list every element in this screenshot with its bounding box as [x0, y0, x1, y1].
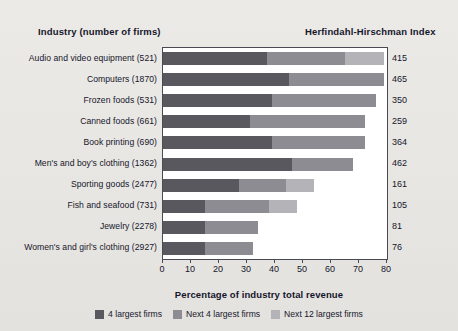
- bar-segment-1: [163, 242, 205, 255]
- hhi-value: 259: [392, 110, 432, 131]
- hhi-column-title: Herfindahl-Hirschman Index: [305, 26, 436, 37]
- x-axis: 01020304050607080: [162, 259, 386, 289]
- hhi-value: 350: [392, 89, 432, 110]
- x-axis-title: Percentage of industry total revenue: [0, 289, 458, 300]
- hhi-value: 105: [392, 195, 432, 216]
- hhi-value: 462: [392, 153, 432, 174]
- category-label: Women's and girl's clothing (2927): [0, 237, 157, 258]
- bar-row: [163, 217, 387, 238]
- category-label: Canned foods (661): [0, 110, 157, 131]
- hhi-value: 415: [392, 47, 432, 68]
- x-tick-label: 60: [325, 264, 335, 274]
- legend-item: Next 12 largest firms: [271, 309, 363, 319]
- bar-segment-1: [163, 73, 289, 86]
- bar-segment-2: [267, 52, 345, 65]
- x-tick-label: 40: [269, 264, 279, 274]
- bar-segment-2: [250, 115, 365, 128]
- bars-container: [163, 48, 387, 259]
- x-tick-label: 70: [353, 264, 363, 274]
- stacked-bar: [163, 158, 387, 171]
- bar-row: [163, 175, 387, 196]
- legend-swatch-icon: [95, 310, 104, 319]
- category-label: Frozen foods (531): [0, 89, 157, 110]
- bar-segment-2: [272, 136, 364, 149]
- category-label: Jewelry (2278): [0, 216, 157, 237]
- bar-row: [163, 132, 387, 153]
- bar-segment-2: [292, 158, 354, 171]
- bar-row: [163, 154, 387, 175]
- category-label: Men's and boy's clothing (1362): [0, 153, 157, 174]
- hhi-value: 161: [392, 174, 432, 195]
- bar-segment-2: [205, 221, 258, 234]
- hhi-value: 76: [392, 237, 432, 258]
- legend-label: 4 largest firms: [108, 309, 162, 319]
- stacked-bar: [163, 242, 387, 255]
- bar-row: [163, 90, 387, 111]
- category-label: Computers (1870): [0, 68, 157, 89]
- stacked-bar: [163, 221, 387, 234]
- category-label: Book printing (690): [0, 131, 157, 152]
- legend-item: Next 4 largest firms: [173, 309, 260, 319]
- bar-segment-1: [163, 221, 205, 234]
- bar-segment-1: [163, 94, 272, 107]
- stacked-bar: [163, 136, 387, 149]
- legend-label: Next 12 largest firms: [284, 309, 363, 319]
- x-tick: [330, 259, 331, 263]
- hhi-value: 81: [392, 216, 432, 237]
- bar-segment-3: [345, 52, 384, 65]
- x-tick-label: 0: [159, 264, 164, 274]
- x-tick: [246, 259, 247, 263]
- stacked-bar: [163, 179, 387, 192]
- chart-figure: Industry (number of firms) Herfindahl-Hi…: [0, 0, 458, 331]
- bar-segment-1: [163, 158, 292, 171]
- stacked-bar: [163, 73, 387, 86]
- legend-label: Next 4 largest firms: [186, 309, 260, 319]
- legend-swatch-icon: [173, 310, 182, 319]
- bar-row: [163, 48, 387, 69]
- bar-segment-2: [289, 73, 384, 86]
- bar-segment-1: [163, 115, 250, 128]
- bar-segment-1: [163, 136, 272, 149]
- x-tick-label: 80: [381, 264, 391, 274]
- bar-segment-2: [272, 94, 376, 107]
- category-label: Sporting goods (2477): [0, 174, 157, 195]
- hhi-value: 364: [392, 131, 432, 152]
- stacked-bar: [163, 94, 387, 107]
- x-tick: [190, 259, 191, 263]
- x-tick: [386, 259, 387, 263]
- bar-segment-1: [163, 200, 205, 213]
- x-tick-label: 20: [213, 264, 223, 274]
- bar-segment-2: [239, 179, 287, 192]
- x-axis-title-text: Percentage of industry total revenue: [115, 289, 343, 300]
- bar-row: [163, 238, 387, 259]
- category-label: Fish and seafood (731): [0, 195, 157, 216]
- bar-segment-1: [163, 179, 239, 192]
- plot-area: [162, 47, 388, 260]
- stacked-bar: [163, 200, 387, 213]
- legend-item: 4 largest firms: [95, 309, 162, 319]
- bar-segment-3: [269, 200, 297, 213]
- x-tick: [302, 259, 303, 263]
- bar-segment-3: [286, 179, 314, 192]
- stacked-bar: [163, 52, 387, 65]
- chart-legend: 4 largest firmsNext 4 largest firmsNext …: [0, 309, 458, 319]
- bar-row: [163, 196, 387, 217]
- bar-segment-2: [205, 242, 253, 255]
- bar-segment-2: [205, 200, 269, 213]
- hhi-value: 465: [392, 68, 432, 89]
- bar-row: [163, 69, 387, 90]
- x-tick: [358, 259, 359, 263]
- x-tick-label: 10: [185, 264, 195, 274]
- industry-column-title: Industry (number of firms): [38, 26, 161, 37]
- x-tick-label: 30: [241, 264, 251, 274]
- x-tick: [274, 259, 275, 263]
- bar-row: [163, 111, 387, 132]
- category-label: Audio and video equipment (521): [0, 47, 157, 68]
- x-tick-label: 50: [297, 264, 307, 274]
- bar-segment-1: [163, 52, 267, 65]
- stacked-bar: [163, 115, 387, 128]
- legend-swatch-icon: [271, 310, 280, 319]
- x-tick: [218, 259, 219, 263]
- x-tick: [162, 259, 163, 263]
